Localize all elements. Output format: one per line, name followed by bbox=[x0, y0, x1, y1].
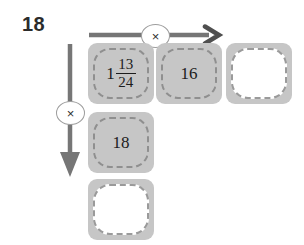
mixed-number-value: 1 13 24 bbox=[106, 57, 136, 91]
cell-row3-col1-answer-blank[interactable] bbox=[88, 179, 154, 240]
fraction-denominator: 24 bbox=[116, 74, 135, 90]
worksheet-problem-canvas: 18 × × 1 13 24 bbox=[0, 0, 304, 245]
cell-inner: 18 bbox=[93, 117, 149, 168]
cell-inner-blank bbox=[231, 48, 287, 99]
cell-value: 18 bbox=[113, 134, 130, 151]
cell-inner: 16 bbox=[161, 48, 217, 99]
cell-row1-col3-answer-blank[interactable] bbox=[226, 43, 292, 104]
cell-row1-col2[interactable]: 16 bbox=[156, 43, 222, 104]
multiply-icon: × bbox=[67, 106, 75, 119]
fraction: 13 24 bbox=[116, 57, 136, 91]
multiply-icon: × bbox=[152, 29, 160, 42]
fraction-numerator: 13 bbox=[116, 57, 135, 73]
cell-value: 16 bbox=[181, 65, 198, 82]
cell-inner-blank bbox=[93, 184, 149, 235]
cell-row1-col1[interactable]: 1 13 24 bbox=[88, 43, 154, 104]
cell-inner: 1 13 24 bbox=[93, 48, 149, 99]
problem-number: 18 bbox=[22, 13, 45, 36]
column-operator-badge: × bbox=[56, 101, 85, 125]
cell-row2-col1[interactable]: 18 bbox=[88, 112, 154, 173]
mixed-whole-part: 1 bbox=[106, 65, 115, 82]
